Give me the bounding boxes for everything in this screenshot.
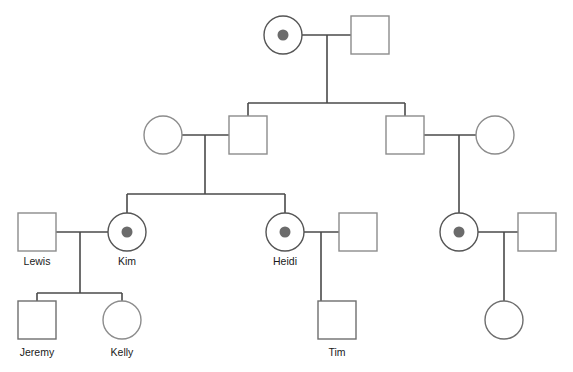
- symbol-square-II-2: [229, 116, 267, 154]
- carrier-dot-III-5: [454, 227, 465, 238]
- symbol-square-III-6: [518, 213, 556, 251]
- name-label-jeremy: Jeremy: [20, 346, 55, 358]
- carrier-dot-III-2: [122, 227, 133, 238]
- symbol-square-I-2: [351, 16, 389, 54]
- individual-IV-1-male-affected[interactable]: [18, 301, 56, 339]
- symbol-layer: [18, 16, 556, 339]
- pedigree-canvas: LewisKimHeidiJeremyKellyTim: [0, 0, 573, 372]
- individual-IV-3-male-affected[interactable]: [318, 301, 356, 339]
- symbol-square-IV-3: [318, 301, 356, 339]
- name-label-kim: Kim: [118, 255, 136, 267]
- individual-I-1-female-carrier[interactable]: [264, 16, 302, 54]
- name-label-heidi: Heidi: [273, 255, 297, 267]
- individual-III-3-female-carrier[interactable]: [266, 213, 304, 251]
- carrier-dot-III-3: [280, 227, 291, 238]
- pedigree-chart: LewisKimHeidiJeremyKellyTim: [0, 0, 573, 372]
- name-label-kelly: Kelly: [111, 346, 135, 358]
- symbol-square-III-1: [18, 213, 56, 251]
- individual-II-3-male-unaffected[interactable]: [386, 116, 424, 154]
- individual-III-4-male-unaffected[interactable]: [339, 213, 377, 251]
- symbol-circle-II-4: [476, 116, 514, 154]
- symbol-circle-II-1: [144, 116, 182, 154]
- individual-II-1-female-unaffected[interactable]: [144, 116, 182, 154]
- symbol-circle-IV-4: [485, 301, 523, 339]
- carrier-dot-I-1: [278, 30, 289, 41]
- symbol-circle-IV-2: [103, 301, 141, 339]
- symbol-square-II-3: [386, 116, 424, 154]
- symbol-square-III-4: [339, 213, 377, 251]
- individual-III-6-male-unaffected[interactable]: [518, 213, 556, 251]
- individual-IV-4-female-affected[interactable]: [485, 301, 523, 339]
- label-layer: LewisKimHeidiJeremyKellyTim: [20, 255, 346, 358]
- individual-IV-2-female-unaffected[interactable]: [103, 301, 141, 339]
- individual-II-2-male-unaffected[interactable]: [229, 116, 267, 154]
- individual-III-1-male-unaffected[interactable]: [18, 213, 56, 251]
- name-label-lewis: Lewis: [24, 255, 51, 267]
- individual-III-5-female-carrier[interactable]: [440, 213, 478, 251]
- individual-I-2-male-unaffected[interactable]: [351, 16, 389, 54]
- individual-II-4-female-unaffected[interactable]: [476, 116, 514, 154]
- symbol-square-IV-1: [18, 301, 56, 339]
- individual-III-2-female-carrier[interactable]: [108, 213, 146, 251]
- name-label-tim: Tim: [328, 346, 345, 358]
